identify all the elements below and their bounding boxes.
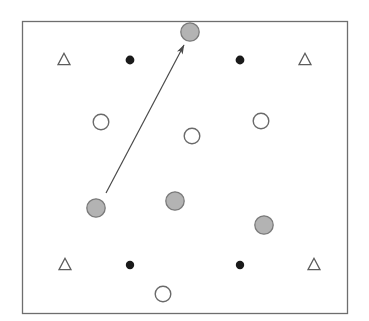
dot-bottom-left: [126, 261, 134, 269]
gray-circle-lower-right: [255, 216, 273, 234]
gray-circle-origin: [87, 199, 105, 217]
open-circle-right: [253, 113, 269, 129]
gray-circle-top: [181, 23, 199, 41]
open-circle-center: [184, 128, 200, 144]
dot-bottom-right: [236, 261, 244, 269]
figure-container: [0, 0, 369, 321]
gray-circle-middle: [166, 192, 184, 210]
open-circle-bottom: [155, 286, 171, 302]
dot-top-left: [126, 56, 135, 65]
open-circle-left: [93, 114, 109, 130]
dot-top-right: [236, 56, 245, 65]
point-pattern-diagram: [0, 0, 369, 321]
